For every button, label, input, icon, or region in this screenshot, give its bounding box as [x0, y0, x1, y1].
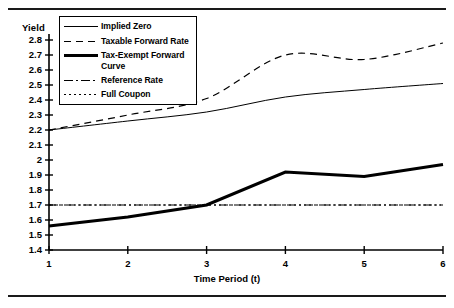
legend-line-swatch: [64, 36, 98, 47]
legend-item: Taxable Forward Rate: [64, 36, 191, 47]
legend-item-label: Implied Zero: [98, 21, 152, 32]
legend-item-label: Reference Rate: [98, 75, 163, 86]
legend-item-label: Tax-Exempt Forward Curve: [98, 50, 191, 71]
legend-item-label: Full Coupon: [98, 89, 151, 100]
figure: Yield Time Period (t) 2.82.72.62.52.42.3…: [0, 0, 454, 308]
legend-line-swatch: [64, 50, 98, 61]
legend-item: Full Coupon: [64, 89, 191, 100]
legend-line-swatch: [64, 75, 98, 86]
legend-item-label: Taxable Forward Rate: [98, 36, 189, 47]
series-line: [49, 165, 443, 227]
legend-line-swatch: [64, 89, 98, 100]
legend: Implied ZeroTaxable Forward RateTax-Exem…: [59, 16, 197, 105]
legend-item: Reference Rate: [64, 75, 191, 86]
legend-item: Implied Zero: [64, 21, 191, 32]
legend-line-swatch: [64, 21, 98, 32]
legend-item: Tax-Exempt Forward Curve: [64, 50, 191, 71]
